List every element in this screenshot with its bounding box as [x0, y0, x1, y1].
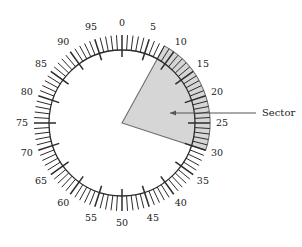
- scale-label: 65: [35, 175, 47, 186]
- major-tick: [70, 52, 83, 70]
- minor-tick: [100, 194, 104, 209]
- scale-label: 5: [150, 21, 156, 32]
- minor-tick: [149, 41, 155, 55]
- major-tick: [38, 96, 59, 103]
- scale-label: 30: [211, 147, 223, 158]
- scale-label: 90: [57, 36, 69, 47]
- minor-tick: [127, 196, 128, 211]
- minor-tick: [140, 38, 144, 53]
- scale-label: 10: [175, 36, 187, 47]
- scale-label: 95: [85, 21, 97, 32]
- scale-label: 45: [147, 212, 159, 223]
- minor-tick: [106, 37, 109, 52]
- minor-tick: [85, 189, 91, 203]
- minor-tick: [42, 154, 56, 160]
- major-tick: [142, 39, 149, 60]
- minor-tick: [37, 101, 52, 105]
- scale-label: 60: [57, 197, 69, 208]
- minor-tick: [111, 195, 113, 210]
- minor-tick: [35, 132, 50, 134]
- dial-figure: 05101520253035404550556065707580859095 S…: [0, 0, 302, 247]
- minor-tick: [85, 43, 91, 57]
- minor-tick: [35, 112, 50, 114]
- scale-label: 40: [175, 197, 187, 208]
- major-tick: [38, 143, 59, 150]
- scale-label: 50: [116, 217, 128, 228]
- minor-tick: [90, 191, 96, 205]
- minor-tick: [136, 37, 139, 52]
- minor-tick: [116, 196, 117, 211]
- scale-label: 15: [197, 58, 209, 69]
- major-tick: [142, 186, 149, 207]
- scale-label: 80: [21, 86, 33, 97]
- scale-label: 85: [35, 58, 47, 69]
- major-tick: [70, 176, 83, 194]
- minor-tick: [40, 91, 54, 97]
- minor-tick: [42, 86, 56, 92]
- minor-tick: [37, 141, 52, 145]
- major-tick: [95, 39, 102, 60]
- minor-tick: [100, 38, 104, 53]
- minor-tick: [34, 117, 49, 118]
- major-tick: [95, 186, 102, 207]
- minor-tick: [36, 107, 51, 110]
- minor-tick: [90, 41, 96, 55]
- sector-callout-label: Sector: [262, 107, 295, 118]
- minor-tick: [34, 128, 49, 129]
- minor-tick: [188, 154, 202, 160]
- minor-tick: [190, 150, 204, 156]
- scale-label: 25: [216, 117, 228, 128]
- minor-tick: [136, 195, 139, 210]
- minor-tick: [111, 36, 113, 51]
- minor-tick: [36, 137, 51, 140]
- minor-tick: [40, 150, 54, 156]
- minor-tick: [131, 195, 133, 210]
- minor-tick: [153, 189, 159, 203]
- minor-tick: [106, 195, 109, 210]
- scale-label: 55: [85, 212, 97, 223]
- minor-tick: [153, 43, 159, 57]
- minor-tick: [131, 36, 133, 51]
- major-tick: [161, 176, 174, 194]
- scale-label: 0: [119, 17, 125, 28]
- scale-label: 35: [197, 175, 209, 186]
- minor-tick: [149, 191, 155, 205]
- scale-label: 20: [211, 86, 223, 97]
- scale-label: 75: [16, 117, 28, 128]
- major-tick: [51, 71, 69, 84]
- major-tick: [51, 162, 69, 175]
- scale-label: 70: [21, 147, 33, 158]
- major-tick: [175, 162, 193, 175]
- minor-tick: [127, 35, 128, 50]
- minor-tick: [140, 194, 144, 209]
- dial-svg: 05101520253035404550556065707580859095 S…: [0, 0, 302, 247]
- minor-tick: [116, 35, 117, 50]
